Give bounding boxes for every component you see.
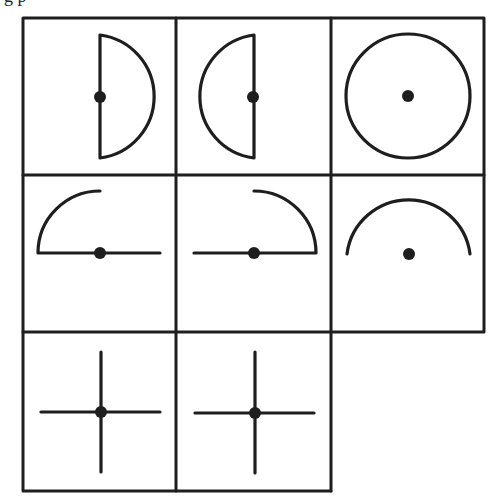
- left-half-circle-shape: [200, 35, 254, 158]
- dot-icon: [403, 248, 415, 260]
- upper-semicircle-arc-shape: [347, 200, 470, 254]
- upper-left-quarter-arc-shape: [38, 191, 160, 253]
- right-half-circle-shape: [100, 35, 154, 158]
- cell-r2c2: [194, 191, 316, 259]
- puzzle-figure: [0, 0, 497, 503]
- dot-icon: [95, 406, 107, 418]
- cell-r3c2: [195, 352, 314, 473]
- cell-r1c2: [200, 35, 259, 158]
- cell-r1c3: [346, 34, 470, 158]
- dot-icon: [94, 247, 106, 259]
- cell-r2c1: [38, 191, 160, 259]
- dot-icon: [249, 407, 261, 419]
- dot-icon: [248, 247, 260, 259]
- dot-icon: [247, 91, 259, 103]
- dot-icon: [94, 91, 106, 103]
- cell-r2c3: [347, 200, 470, 260]
- cell-r1c1: [94, 35, 154, 158]
- cell-r3c1: [41, 352, 160, 472]
- upper-right-quarter-arc-shape: [194, 191, 316, 253]
- dot-icon: [402, 90, 414, 102]
